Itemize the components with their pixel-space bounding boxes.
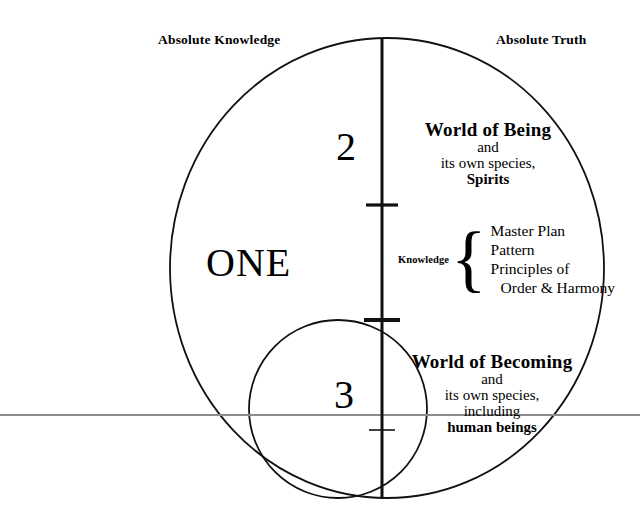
knowledge-item-2: Principles of	[491, 260, 616, 279]
knowledge-label: Knowledge	[398, 254, 451, 265]
world-of-becoming-line-3: its own species,	[388, 388, 596, 404]
world-of-becoming-line-5: human beings	[388, 420, 596, 436]
label-absolute-truth: Absolute Truth	[496, 33, 586, 47]
knowledge-items-list: Master Plan Pattern Principles of Order …	[489, 222, 616, 298]
world-of-being-block: World of Being and its own species, Spir…	[390, 120, 586, 188]
diagram-canvas: Absolute Knowledge Absolute Truth ONE 2 …	[0, 0, 640, 526]
world-of-becoming-title: World of Becoming	[388, 352, 596, 372]
world-of-being-line-2: and	[390, 140, 586, 156]
world-of-being-title: World of Being	[390, 120, 586, 140]
world-of-becoming-line-4: including	[388, 404, 596, 420]
curly-brace-icon: {	[451, 227, 487, 289]
numeral-three: 3	[334, 375, 354, 415]
knowledge-item-0: Master Plan	[491, 222, 616, 241]
numeral-two: 2	[336, 127, 356, 167]
knowledge-item-3: Order & Harmony	[491, 279, 616, 298]
world-of-becoming-line-2: and	[388, 372, 596, 388]
knowledge-group: Knowledge { Master Plan Pattern Principl…	[398, 222, 615, 298]
world-of-becoming-block: World of Becoming and its own species, i…	[388, 352, 596, 436]
knowledge-item-1: Pattern	[491, 241, 616, 260]
world-of-being-line-3: its own species,	[390, 156, 586, 172]
label-one: ONE	[206, 243, 291, 283]
world-of-being-line-4: Spirits	[390, 172, 586, 188]
label-absolute-knowledge: Absolute Knowledge	[158, 33, 280, 47]
